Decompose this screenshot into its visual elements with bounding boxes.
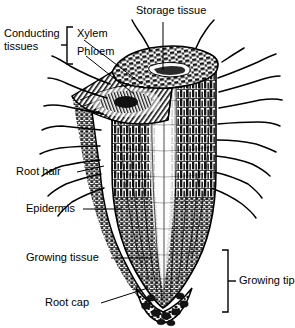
label-phloem: Phloem [77,45,114,58]
label-storage-tissue: Storage tissue [136,4,206,17]
label-root-cap: Root cap [45,296,89,309]
label-conducting-tissues: Conducting tissues [4,27,68,52]
label-root-hair: Root hair [16,165,61,178]
growing-tip-bracket [222,250,236,312]
label-growing-tissue: Growing tissue [26,251,99,264]
label-epidermis: Epidermis [26,202,75,215]
root-tip-diagram: Storage tissue Conducting tissues Xylem … [0,0,295,328]
label-xylem: Xylem [77,27,108,40]
label-growing-tip: Growing tip [239,274,295,287]
